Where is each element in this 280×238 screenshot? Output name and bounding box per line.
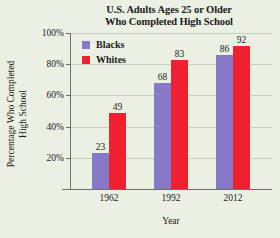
bar-value-whites-2012: 92 [237, 35, 247, 45]
bar-whites-1992: 83 [171, 60, 188, 190]
chart-title-line-2: Who Completed High School [62, 16, 276, 28]
bar-chart: U.S. Adults Ages 25 or Older Who Complet… [0, 0, 280, 238]
bar-blacks-1962: 23 [92, 153, 109, 189]
y-tick-label-40: 40% [47, 122, 64, 132]
plot-area: 100% 80% 60% 40% 20% Blacks Whites [70, 33, 272, 189]
y-tick-label-80: 80% [47, 59, 64, 69]
bar-blacks-2012: 86 [216, 55, 233, 189]
x-tick-label-1992: 1992 [162, 193, 181, 203]
chart-title-line-1: U.S. Adults Ages 25 or Older [62, 4, 276, 16]
x-tick-label-2012: 2012 [224, 193, 243, 203]
bar-value-blacks-2012: 86 [220, 44, 230, 54]
bar-value-whites-1962: 49 [113, 102, 123, 112]
x-axis-line [62, 189, 272, 190]
y-axis-title-line-2: High School [17, 61, 29, 167]
bar-group-1962: 23 49 [92, 33, 126, 189]
y-axis-title: Percentage Who Completed High School [4, 28, 30, 200]
bar-value-whites-1992: 83 [175, 49, 185, 59]
bar-group-1992: 68 83 [154, 33, 188, 189]
y-tick-label-20: 20% [47, 153, 64, 163]
y-axis-title-line-1: Percentage Who Completed [5, 61, 17, 167]
bars-layer: 23 49 68 83 86 9 [70, 33, 272, 189]
bar-value-blacks-1992: 68 [158, 72, 168, 82]
x-tick-label-1962: 1962 [100, 193, 119, 203]
bar-whites-1962: 49 [109, 113, 126, 189]
chart-title: U.S. Adults Ages 25 or Older Who Complet… [62, 4, 276, 27]
bar-value-blacks-1962: 23 [96, 142, 106, 152]
bar-group-2012: 86 92 [216, 33, 250, 189]
bar-whites-2012: 92 [233, 46, 250, 190]
x-axis-title: Year [70, 216, 272, 226]
bar-blacks-1992: 68 [154, 83, 171, 189]
y-tick-label-60: 60% [47, 90, 64, 100]
y-tick-label-100: 100% [42, 28, 64, 38]
